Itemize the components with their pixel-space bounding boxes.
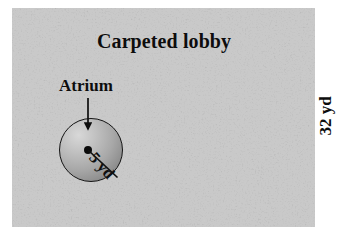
lobby-atrium-diagram: Carpeted lobby Atrium 5 yd 32 yd bbox=[0, 0, 353, 227]
height-dimension-label: 32 yd bbox=[316, 96, 336, 135]
atrium-label: Atrium bbox=[59, 76, 113, 96]
page-title: Carpeted lobby bbox=[97, 30, 231, 53]
atrium-center-point bbox=[84, 146, 92, 154]
